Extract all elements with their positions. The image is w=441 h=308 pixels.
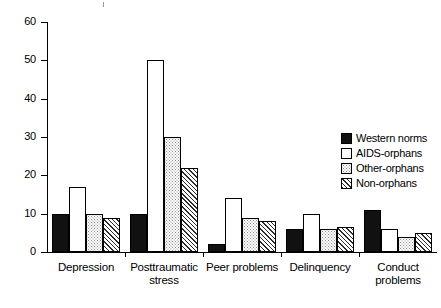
category-label-line: Posttraumatic <box>125 261 203 274</box>
bar-group <box>130 22 198 252</box>
bar <box>303 214 320 252</box>
bar <box>103 218 120 253</box>
x-axis-tick <box>203 252 204 257</box>
bar <box>381 229 398 252</box>
bar <box>242 218 259 253</box>
bar <box>69 187 86 252</box>
bar <box>225 198 242 252</box>
x-axis-tick <box>359 252 360 257</box>
legend-label: Non-orphans <box>356 178 417 189</box>
bar <box>259 221 276 252</box>
bar-group <box>208 22 276 252</box>
category-label-line: Delinquency <box>281 261 359 274</box>
bar <box>147 60 164 252</box>
x-axis-category-label: Depression <box>47 261 125 274</box>
y-axis-tick-label: 20 <box>0 169 36 180</box>
legend-swatch-icon <box>341 163 352 174</box>
y-axis-tick-label: 60 <box>0 16 36 27</box>
bar <box>130 214 147 252</box>
y-axis-tick-label: 30 <box>0 131 36 142</box>
x-axis-category-label: Posttraumaticstress <box>125 261 203 287</box>
chart-legend: Western normsAIDS-orphansOther-orphansNo… <box>341 131 441 191</box>
bar <box>52 214 69 252</box>
x-axis-category-label: Conductproblems <box>359 261 437 287</box>
category-label-line: Depression <box>47 261 125 274</box>
bar <box>208 244 225 252</box>
bar <box>181 168 198 252</box>
y-axis-tick-label: 40 <box>0 93 36 104</box>
category-label-line: Peer problems <box>203 261 281 274</box>
legend-label: Other-orphans <box>356 163 424 174</box>
y-axis-tick-label: 50 <box>0 54 36 65</box>
bar <box>164 137 181 252</box>
x-axis-tick <box>125 252 126 257</box>
bar <box>364 210 381 252</box>
legend-swatch-icon <box>341 133 352 144</box>
category-label-line: stress <box>125 274 203 287</box>
bar-group <box>52 22 120 252</box>
bar <box>398 237 415 252</box>
legend-item: Other-orphans <box>341 161 441 175</box>
bar <box>86 214 103 252</box>
category-label-line: Conduct <box>359 261 437 274</box>
x-axis-category-label: Delinquency <box>281 261 359 274</box>
legend-swatch-icon <box>341 148 352 159</box>
x-axis-tick <box>281 252 282 257</box>
category-label-line: problems <box>359 274 437 287</box>
bar <box>320 229 337 252</box>
y-axis-tick <box>41 252 48 253</box>
legend-item: Western norms <box>341 131 441 145</box>
bar <box>286 229 303 252</box>
legend-item: Non-orphans <box>341 176 441 190</box>
top-tick-mark <box>103 2 104 7</box>
bar <box>415 233 432 252</box>
legend-item: AIDS-orphans <box>341 146 441 160</box>
bar-chart: 0102030405060 DepressionPosttraumaticstr… <box>0 0 441 308</box>
legend-swatch-icon <box>341 178 352 189</box>
legend-label: Western norms <box>356 133 427 144</box>
y-axis-tick-label: 10 <box>0 208 36 219</box>
legend-label: AIDS-orphans <box>356 148 422 159</box>
x-axis-category-label: Peer problems <box>203 261 281 274</box>
x-axis-line <box>47 252 437 253</box>
bar <box>337 227 354 252</box>
y-axis-tick-label: 0 <box>0 246 36 257</box>
